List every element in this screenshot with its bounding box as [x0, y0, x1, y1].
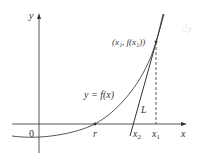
tangent-line-L: [130, 14, 164, 136]
y-axis-arrow-icon: [37, 13, 41, 19]
origin-label: 0: [29, 128, 34, 139]
x1-label: x1: [151, 128, 160, 141]
y-axis-label: y: [28, 10, 34, 21]
x-axis-label: x: [180, 128, 186, 139]
root-point: [94, 123, 97, 126]
x1-label-sub: 1: [156, 133, 160, 141]
tangent-point: [155, 41, 158, 44]
decorative-speckle-icon: [182, 24, 191, 32]
tangent-point-label: (x₁, f(x₁)): [112, 37, 145, 47]
x2-label-sub: 2: [137, 133, 141, 141]
tangent-line-label: L: [140, 104, 147, 115]
root-label: r: [93, 128, 97, 139]
function-curve: [12, 14, 163, 137]
newton-method-diagram: y x 0 r x2 x1 (x₁, f(x₁)) y = f(x) L: [0, 0, 204, 161]
x2-label: x2: [132, 128, 141, 141]
curve-label: y = f(x): [83, 89, 115, 101]
x-axis-arrow-icon: [181, 122, 187, 126]
